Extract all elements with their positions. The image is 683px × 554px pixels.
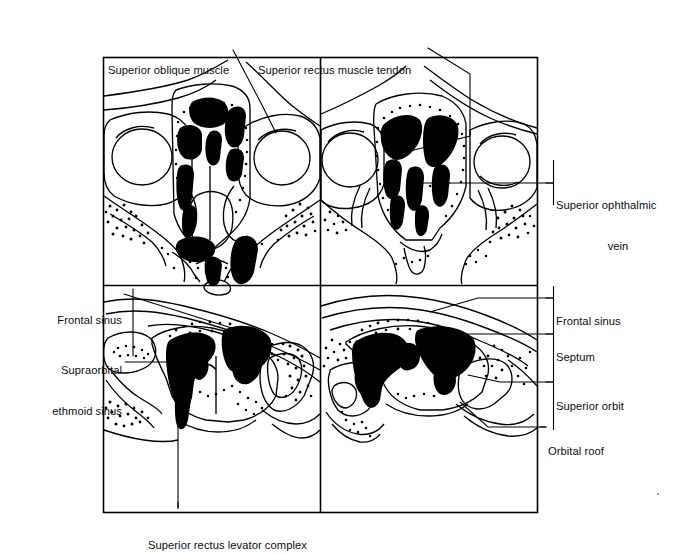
- label-supraorbital-ethmoid-sinus: Supraorbital ethmoid sinus: [18, 337, 122, 445]
- label-superior-oblique-muscle: Superior oblique muscle: [108, 37, 229, 105]
- label-superior-ophthalmic-vein-line2: vein: [556, 240, 680, 254]
- tl-black-3: [177, 125, 202, 159]
- scan-artifact-speck: [657, 493, 659, 495]
- label-superior-rectus-levator-complex: Superior rectus levator complex: [148, 512, 307, 554]
- label-superior-ophthalmic-vein-line1: Superior ophthalmic: [556, 199, 680, 213]
- label-orbital-roof-text: Orbital roof: [548, 445, 604, 459]
- label-supraorbital-ethmoid-sinus-line1: Supraorbital: [18, 364, 122, 378]
- label-superior-rectus-levator-complex-text: Superior rectus levator complex: [148, 539, 307, 553]
- label-superior-oblique-muscle-text: Superior oblique muscle: [108, 64, 229, 78]
- label-septum-text: Septum: [556, 351, 595, 365]
- label-superior-ophthalmic-vein: Superior ophthalmic vein: [556, 172, 680, 280]
- label-supraorbital-ethmoid-sinus-line2: ethmoid sinus: [18, 405, 122, 419]
- label-frontal-sinus-left-text: Frontal sinus: [30, 314, 122, 328]
- label-superior-rectus-muscle-tendon-text: Superior rectus muscle tendon: [258, 64, 411, 78]
- label-superior-orbit-text: Superior orbit: [556, 400, 624, 414]
- label-superior-rectus-muscle-tendon: Superior rectus muscle tendon: [258, 37, 411, 105]
- label-orbital-roof: Orbital roof: [548, 418, 604, 486]
- anatomy-figure: Superior oblique muscle Superior rectus …: [0, 0, 683, 554]
